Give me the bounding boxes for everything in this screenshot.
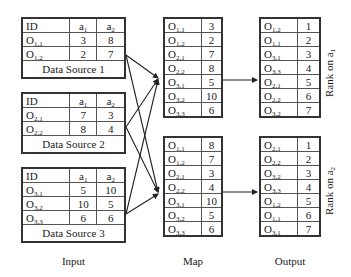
arrow-ds2-to-map-a1 — [126, 79, 158, 127]
arrow-ds3-to-map-a2 — [126, 194, 158, 214]
arrow-ds2-to-map-a2 — [126, 127, 158, 192]
arrow-ds1-to-map-a2 — [126, 55, 158, 192]
flow-arrows — [0, 0, 351, 277]
arrow-ds3-to-map-a1 — [126, 80, 158, 214]
